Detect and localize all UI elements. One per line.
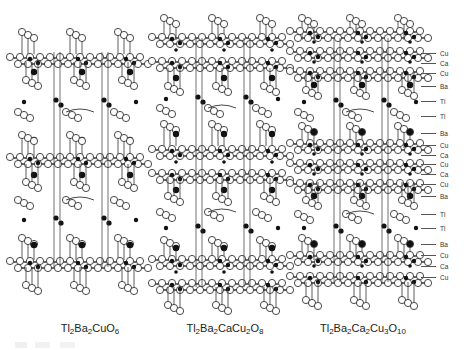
element-symbol: Tl xyxy=(186,322,195,334)
layer-label: Cu xyxy=(440,142,448,149)
structure-tl2212 xyxy=(148,14,293,314)
layer-label: Tl xyxy=(440,98,445,105)
label-leader-line xyxy=(421,255,436,256)
label-leader-line xyxy=(421,164,436,165)
label-leader-line xyxy=(421,277,436,278)
layer-label: Ba xyxy=(440,193,448,200)
label-leader-line xyxy=(421,86,436,87)
element-symbol: Ca xyxy=(218,322,232,334)
layer-label: Cu xyxy=(440,181,448,188)
element-symbol: Tl xyxy=(61,322,70,334)
formula-caption-tl2212: Tl2Ba2CaCu2O8 xyxy=(186,322,263,336)
layer-label: Ba xyxy=(440,241,448,248)
element-symbol: Cu xyxy=(370,322,384,334)
stoichiometry-subscript: 8 xyxy=(259,327,263,336)
formula-caption-tl2223: Tl2Ba2Ca2Cu3O10 xyxy=(320,322,406,336)
element-symbol: Cu xyxy=(92,322,106,334)
element-symbol: Ba xyxy=(334,322,347,334)
element-symbol: O xyxy=(251,322,260,334)
stoichiometry-subscript: 10 xyxy=(397,327,406,336)
element-symbol: Cu xyxy=(232,322,246,334)
label-leader-line xyxy=(421,174,436,175)
layer-label: Ca xyxy=(440,60,448,67)
label-leader-line xyxy=(421,266,436,267)
formula-caption-tl2201: Tl2Ba2CuO6 xyxy=(61,322,120,336)
label-leader-line xyxy=(421,63,436,64)
layer-label: Ba xyxy=(440,130,448,137)
label-leader-line xyxy=(421,196,436,197)
truncated-figure-caption xyxy=(15,342,265,348)
label-leader-line xyxy=(421,101,436,102)
layer-label: Tl xyxy=(440,225,445,232)
layer-label: Ca xyxy=(440,263,448,270)
layer-label: Cu xyxy=(440,252,448,259)
layer-label: Tl xyxy=(440,211,445,218)
stoichiometry-subscript: 6 xyxy=(115,327,119,336)
label-leader-line xyxy=(421,214,436,215)
element-symbol: O xyxy=(106,322,115,334)
element-symbol: Ca xyxy=(352,322,366,334)
label-leader-line xyxy=(421,155,436,156)
label-leader-line xyxy=(421,133,436,134)
layer-label: Cu xyxy=(440,274,448,281)
label-leader-line xyxy=(421,116,436,117)
structure-tl2223 xyxy=(286,14,431,309)
label-leader-line xyxy=(421,244,436,245)
layer-label: Cu xyxy=(440,70,448,77)
element-symbol: O xyxy=(389,322,398,334)
layer-label: Cu xyxy=(440,50,448,57)
structure-drawing xyxy=(0,0,467,350)
label-leader-line xyxy=(421,184,436,185)
structure-tl2201 xyxy=(6,28,151,294)
label-leader-line xyxy=(421,73,436,74)
label-leader-line xyxy=(421,53,436,54)
layer-label: Cu xyxy=(440,161,448,168)
element-symbol: Tl xyxy=(320,322,329,334)
label-leader-line xyxy=(421,145,436,146)
element-symbol: Ba xyxy=(200,322,213,334)
layer-label: Tl xyxy=(440,113,445,120)
layer-label: Ba xyxy=(440,83,448,90)
layer-label: Ca xyxy=(440,171,448,178)
label-leader-line xyxy=(421,228,436,229)
crystal-structure-figure: Tl2Ba2CuO6Tl2Ba2CaCu2O8Tl2Ba2Ca2Cu3O10 C… xyxy=(0,0,467,350)
layer-label: Ca xyxy=(440,152,448,159)
element-symbol: Ba xyxy=(74,322,87,334)
